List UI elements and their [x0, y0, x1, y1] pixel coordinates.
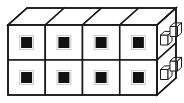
cell-r2-c2-marker [58, 72, 69, 83]
cell-r2-c4-marker [133, 72, 144, 83]
side-handle-r2-near-front [161, 70, 169, 80]
cell-r2-c1-marker [21, 72, 32, 83]
figure-container: Line drawing of eight cube-shaped module… [0, 0, 184, 103]
isometric-cube-array-figure [0, 0, 184, 103]
cell-r1-c2-marker [58, 37, 69, 48]
cell-r1-c1-marker [21, 37, 32, 48]
cell-r2-c3-marker [96, 72, 107, 83]
cell-r1-c3-marker [96, 37, 107, 48]
top-face-group [8, 8, 176, 25]
cell-r1-c4-marker [133, 37, 144, 48]
side-handle-r1-near-front [161, 35, 169, 45]
